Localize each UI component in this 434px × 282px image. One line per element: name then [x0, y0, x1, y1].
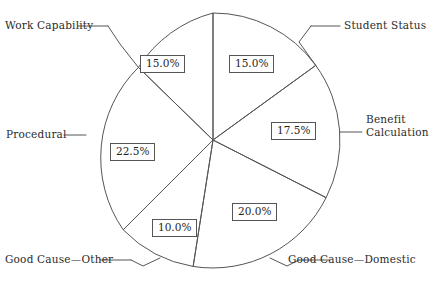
- value-box-good-cause-domestic: 20.0%: [232, 203, 277, 221]
- pie-chart-figure: Work Capability Student Status Benefit C…: [0, 0, 434, 282]
- category-label-work-capability: Work Capability: [5, 19, 93, 32]
- value-box-good-cause-other: 10.0%: [152, 219, 197, 237]
- category-label-benefit-calculation-line2: Calculation: [366, 126, 429, 139]
- value-box-work-capability: 15.0%: [140, 55, 185, 73]
- leader-line-student-status: [299, 26, 316, 65]
- category-label-good-cause-other: Good Cause—Other: [5, 253, 113, 266]
- category-label-good-cause-domestic: Good Cause—Domestic: [288, 253, 416, 266]
- category-label-student-status: Student Status: [344, 19, 426, 32]
- leader-line-good-cause-other: [131, 258, 160, 266]
- value-box-benefit-calculation: 17.5%: [271, 122, 316, 140]
- category-label-benefit-calculation: Benefit Calculation: [366, 113, 429, 139]
- value-box-procedural: 22.5%: [110, 143, 155, 161]
- pie-slice-work-capability[interactable]: [138, 13, 213, 140]
- leader-line-work-capability: [108, 26, 138, 67]
- category-label-procedural: Procedural: [6, 128, 67, 141]
- value-box-student-status: 15.0%: [229, 55, 274, 73]
- category-label-benefit-calculation-line1: Benefit: [366, 113, 429, 126]
